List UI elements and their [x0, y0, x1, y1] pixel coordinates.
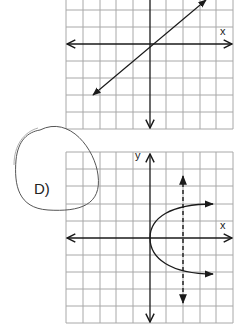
- graph-d-parabola: [150, 204, 213, 274]
- graph-d: [66, 152, 233, 323]
- graph-d-y-axis-label: y: [135, 149, 141, 161]
- graphs-canvas: [0, 0, 245, 329]
- graph-d-x-axis-label: x: [220, 219, 226, 231]
- top-graph: [66, 0, 233, 129]
- hand-drawn-circle: [16, 126, 99, 210]
- option-d-label: D): [34, 180, 50, 197]
- top-x-axis-label: x: [220, 25, 226, 37]
- hand-drawn-stroke: [14, 128, 38, 165]
